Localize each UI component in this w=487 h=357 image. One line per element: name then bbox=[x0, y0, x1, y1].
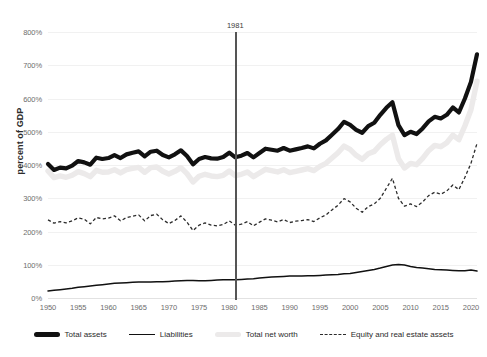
x-axis-tick-1965: 1965 bbox=[130, 303, 146, 312]
thick-line-swatch bbox=[34, 332, 60, 338]
x-axis-tick-1990: 1990 bbox=[282, 303, 298, 312]
dashed-line-swatch bbox=[320, 334, 346, 335]
y-axis-tick-200: 200% bbox=[23, 227, 42, 236]
plot-area: 0%100%200%300%400%500%600%700%800% 19501… bbox=[48, 32, 477, 298]
x-axis-tick-2005: 2005 bbox=[372, 303, 388, 312]
y-axis-tick-700: 700% bbox=[23, 61, 42, 70]
chart-container: percent of GDP 0%100%200%300%400%500%600… bbox=[0, 0, 487, 357]
legend-item-total-net-worth[interactable]: Total net worth bbox=[215, 330, 298, 339]
y-axis-tick-100: 100% bbox=[23, 260, 42, 269]
x-axis-tick-1985: 1985 bbox=[251, 303, 267, 312]
legend-item-total-assets[interactable]: Total assets bbox=[34, 330, 107, 339]
y-axis-tick-300: 300% bbox=[23, 194, 42, 203]
x-axis-tick-2000: 2000 bbox=[342, 303, 358, 312]
x-axis-tick-1960: 1960 bbox=[100, 303, 116, 312]
legend-label: Total assets bbox=[65, 330, 107, 339]
series-layer bbox=[48, 32, 477, 298]
x-axis-tick-2020: 2020 bbox=[463, 303, 479, 312]
y-axis-tick-800: 800% bbox=[23, 28, 42, 37]
thin-line-swatch bbox=[129, 334, 155, 336]
x-axis-tick-1950: 1950 bbox=[40, 303, 56, 312]
annotation-vertical-line bbox=[235, 32, 236, 300]
gridline-0 bbox=[48, 298, 477, 299]
legend-label: Equity and real estate assets bbox=[351, 330, 454, 339]
legend-label: Liabilities bbox=[160, 330, 193, 339]
series-line-liabilities bbox=[48, 264, 477, 291]
chart-legend: Total assetsLiabilitiesTotal net worthEq… bbox=[0, 330, 487, 339]
legend-item-liabilities[interactable]: Liabilities bbox=[129, 330, 193, 339]
x-axis-tick-1995: 1995 bbox=[312, 303, 328, 312]
x-axis-tick-1980: 1980 bbox=[221, 303, 237, 312]
x-axis-tick-2010: 2010 bbox=[402, 303, 418, 312]
x-axis-tick-1975: 1975 bbox=[191, 303, 207, 312]
x-axis-tick-1955: 1955 bbox=[70, 303, 86, 312]
y-axis-tick-0: 0% bbox=[31, 294, 42, 303]
legend-label: Total net worth bbox=[246, 330, 298, 339]
gray-line-swatch bbox=[215, 332, 241, 338]
y-axis-tick-600: 600% bbox=[23, 94, 42, 103]
x-axis-tick-1970: 1970 bbox=[161, 303, 177, 312]
annotation-label-1981: 1981 bbox=[227, 21, 244, 30]
x-axis-tick-2015: 2015 bbox=[433, 303, 449, 312]
y-axis-tick-400: 400% bbox=[23, 161, 42, 170]
legend-item-equity-and-real-estate-assets[interactable]: Equity and real estate assets bbox=[320, 330, 454, 339]
series-line-total-assets bbox=[48, 54, 477, 170]
y-axis-tick-500: 500% bbox=[23, 127, 42, 136]
